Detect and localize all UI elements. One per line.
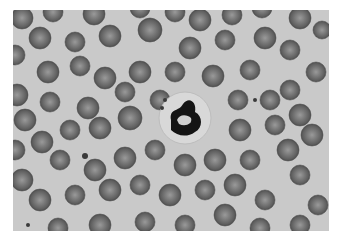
smear-canvas xyxy=(13,10,329,231)
red-blood-cell xyxy=(99,25,121,47)
red-blood-cell xyxy=(204,149,226,171)
red-blood-cell xyxy=(65,185,85,205)
red-blood-cell xyxy=(31,131,53,153)
red-blood-cell xyxy=(224,174,246,196)
red-blood-cell xyxy=(265,115,285,135)
red-blood-cell xyxy=(289,10,311,29)
red-blood-cell xyxy=(214,204,236,226)
red-blood-cell xyxy=(228,90,248,110)
red-blood-cell xyxy=(254,27,276,49)
red-blood-cell xyxy=(229,119,251,141)
red-blood-cell xyxy=(165,62,185,82)
red-blood-cell xyxy=(14,109,36,131)
red-blood-cell xyxy=(13,10,33,29)
red-blood-cell xyxy=(189,10,211,31)
red-blood-cell xyxy=(306,62,326,82)
red-blood-cell xyxy=(29,27,51,49)
red-blood-cell xyxy=(60,120,80,140)
red-blood-cell xyxy=(175,215,195,231)
red-blood-cell xyxy=(240,60,260,80)
red-blood-cell xyxy=(37,61,59,83)
red-blood-cell xyxy=(159,184,181,206)
red-blood-cell xyxy=(43,10,63,22)
red-blood-cell xyxy=(290,215,310,231)
red-blood-cell xyxy=(84,159,106,181)
red-blood-cell xyxy=(89,117,111,139)
platelet xyxy=(160,106,164,110)
red-blood-cell xyxy=(50,150,70,170)
red-blood-cell xyxy=(138,18,162,42)
red-blood-cell xyxy=(118,106,142,130)
red-blood-cell xyxy=(280,80,300,100)
red-blood-cell xyxy=(215,30,235,50)
red-blood-cell xyxy=(135,212,155,231)
red-blood-cell xyxy=(70,56,90,76)
red-blood-cell xyxy=(260,90,280,110)
red-blood-cell xyxy=(289,104,311,126)
red-blood-cell xyxy=(280,40,300,60)
platelet xyxy=(163,98,167,102)
red-blood-cell xyxy=(83,10,105,25)
red-blood-cell xyxy=(165,10,185,22)
red-blood-cell xyxy=(202,65,224,87)
red-blood-cell xyxy=(130,175,150,195)
platelet xyxy=(82,153,88,159)
platelet xyxy=(26,223,30,227)
red-blood-cell xyxy=(252,10,272,18)
red-blood-cell xyxy=(313,21,329,39)
red-blood-cell xyxy=(13,169,33,191)
red-blood-cell xyxy=(77,97,99,119)
red-blood-cell xyxy=(240,150,260,170)
red-blood-cell xyxy=(29,189,51,211)
red-blood-cell xyxy=(99,179,121,201)
red-blood-cell xyxy=(195,180,215,200)
red-blood-cell xyxy=(129,61,151,83)
red-blood-cell xyxy=(174,154,196,176)
red-blood-cell xyxy=(222,10,242,25)
red-blood-cell xyxy=(40,92,60,112)
red-blood-cell xyxy=(13,84,28,106)
red-blood-cell xyxy=(308,195,328,215)
red-blood-cell xyxy=(277,139,299,161)
red-blood-cell xyxy=(301,124,323,146)
red-blood-cell xyxy=(65,32,85,52)
red-blood-cell xyxy=(115,82,135,102)
red-blood-cell xyxy=(48,218,68,231)
platelet xyxy=(253,98,257,102)
red-blood-cell xyxy=(290,165,310,185)
red-blood-cell xyxy=(145,140,165,160)
red-blood-cell xyxy=(250,218,270,231)
red-blood-cell xyxy=(130,10,150,18)
red-blood-cell xyxy=(179,37,201,59)
red-blood-cell xyxy=(114,147,136,169)
red-blood-cell xyxy=(13,45,25,65)
red-blood-cell xyxy=(255,190,275,210)
blood-smear-photo xyxy=(13,10,329,231)
red-blood-cell xyxy=(13,140,25,160)
red-blood-cell xyxy=(94,67,116,89)
red-blood-cell xyxy=(89,214,111,231)
